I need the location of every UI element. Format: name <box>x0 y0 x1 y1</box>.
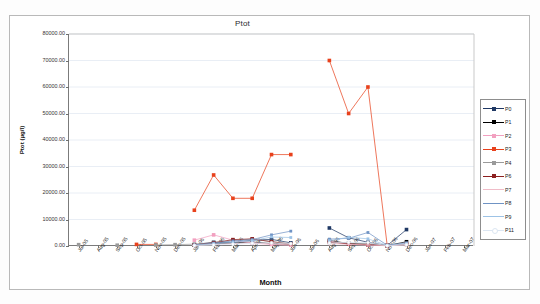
plot-area: Ptot (µg/l) 80000.0070000.0060000.005000… <box>68 34 473 246</box>
data-point-P9 <box>347 236 350 239</box>
chart-screenshot: Ptot Ptot (µg/l) 80000.0070000.0060000.0… <box>0 0 540 304</box>
y-axis-tick-mark <box>66 246 69 247</box>
data-point-P3 <box>135 243 139 247</box>
legend-label: P2 <box>505 133 511 139</box>
legend-label: P4 <box>505 160 511 166</box>
y-axis-tick-label: 60000.00 <box>43 84 65 89</box>
data-point-P11 <box>193 244 196 247</box>
legend-swatch-icon <box>483 158 504 167</box>
data-point-P8 <box>289 230 292 233</box>
y-axis-tick-label: 10000.00 <box>43 217 65 222</box>
data-point-P3 <box>347 112 351 116</box>
legend-item-P0[interactable]: P0 <box>483 102 524 116</box>
data-point-P3 <box>366 85 370 89</box>
data-point-P11 <box>366 241 369 244</box>
y-axis-tick-label: 80000.00 <box>43 31 65 36</box>
data-point-P11 <box>212 243 215 246</box>
legend-item-P8[interactable]: P8 <box>483 197 524 211</box>
plot-svg <box>69 34 474 246</box>
y-axis-tick-label: 40000.00 <box>43 137 65 142</box>
legend-label: P3 <box>505 146 511 152</box>
legend-label: P1 <box>505 119 511 125</box>
data-point-P8 <box>367 231 370 234</box>
legend-label: P0 <box>505 106 511 112</box>
series-line-P3 <box>329 61 387 246</box>
y-axis-tick-label: 50000.00 <box>43 111 65 116</box>
data-point-P2 <box>193 238 197 242</box>
legend-item-P3[interactable]: P3 <box>483 143 524 157</box>
data-point-P11 <box>386 244 389 247</box>
legend-swatch-icon <box>483 104 504 113</box>
legend-swatch-icon <box>483 172 504 181</box>
series-line-P3 <box>194 155 290 211</box>
data-point-P3 <box>328 59 332 63</box>
data-point-P11 <box>270 241 273 244</box>
y-axis-tick-label: 0.00 <box>55 243 66 248</box>
legend-swatch-icon <box>483 131 504 140</box>
legend-swatch-icon <box>483 118 504 127</box>
legend-item-P1[interactable]: P1 <box>483 116 524 130</box>
legend-item-P6[interactable]: P6 <box>483 170 524 184</box>
data-point-P0 <box>328 226 332 230</box>
legend-item-P2[interactable]: P2 <box>483 129 524 143</box>
data-point-P11 <box>405 243 408 246</box>
data-point-P9 <box>289 236 292 239</box>
data-point-P3 <box>212 173 216 177</box>
y-axis-tick-label: 30000.00 <box>43 164 65 169</box>
legend-item-P7[interactable]: P7 <box>483 183 524 197</box>
legend-swatch-icon <box>483 185 504 194</box>
legend-label: P8 <box>505 200 511 206</box>
data-point-P4 <box>173 243 177 247</box>
data-point-P9 <box>367 237 370 240</box>
data-point-P11 <box>289 242 292 245</box>
chart-frame: Ptot Ptot (µg/l) 80000.0070000.0060000.0… <box>9 15 530 290</box>
legend-item-P11[interactable]: P11 <box>483 224 524 238</box>
data-point-P3 <box>289 153 293 157</box>
y-axis-tick-label: 70000.00 <box>43 58 65 63</box>
y-axis-tick-label: 20000.00 <box>43 190 65 195</box>
data-point-P3 <box>250 197 254 201</box>
data-point-P2 <box>212 233 216 237</box>
legend-item-P4[interactable]: P4 <box>483 156 524 170</box>
legend-label: P6 <box>505 173 511 179</box>
x-axis-label: Month <box>68 278 473 287</box>
data-point-P11 <box>328 242 331 245</box>
data-point-P11 <box>251 242 254 245</box>
legend-swatch-icon <box>483 145 504 154</box>
data-point-P9 <box>270 236 273 239</box>
data-point-P11 <box>347 241 350 244</box>
legend-label: P11 <box>505 227 514 233</box>
data-point-P3 <box>231 197 235 201</box>
data-point-P4 <box>77 243 81 247</box>
data-point-P3 <box>193 208 197 212</box>
y-axis-label: Ptot (µg/l) <box>18 125 25 154</box>
data-point-P4 <box>115 243 119 247</box>
legend-item-P9[interactable]: P9 <box>483 210 524 224</box>
legend-label: P7 <box>505 187 511 193</box>
data-point-P4 <box>154 243 158 247</box>
data-point-P3 <box>270 153 274 157</box>
chart-legend: P0P1P2P3P4P6P7P8P9P11 <box>480 99 526 240</box>
data-point-P11 <box>231 243 234 246</box>
legend-swatch-icon <box>483 199 504 208</box>
legend-swatch-icon <box>483 226 504 235</box>
data-point-P0 <box>405 228 409 232</box>
legend-label: P9 <box>505 214 511 220</box>
legend-swatch-icon <box>483 212 504 221</box>
chart-title: Ptot <box>10 19 475 28</box>
